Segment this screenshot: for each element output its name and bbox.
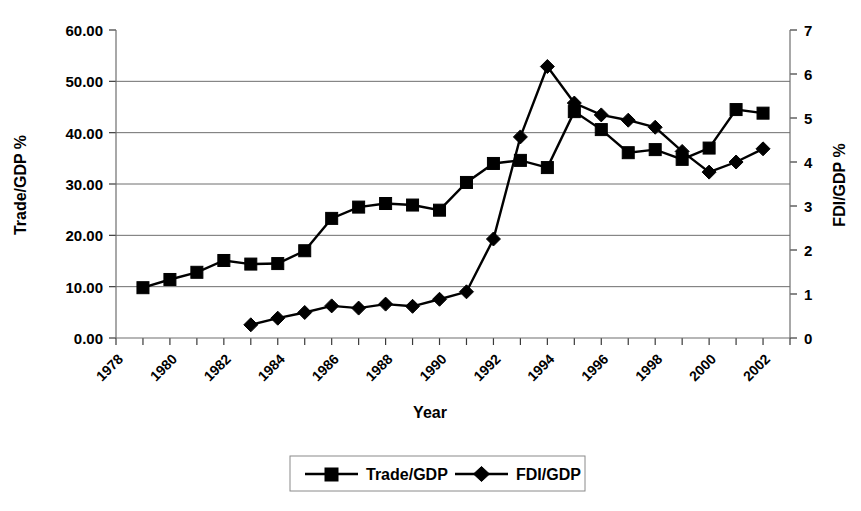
- data-point-square: [353, 201, 365, 213]
- chart-legend: Trade/GDP FDI/GDP: [290, 456, 585, 491]
- data-point-square: [164, 273, 176, 285]
- y-tick-label-left: 60.00: [65, 22, 103, 39]
- y-tick-label-right: 3: [804, 198, 812, 215]
- y-tick-label-left: 0.00: [74, 330, 103, 347]
- y-tick-label-left: 30.00: [65, 176, 103, 193]
- chart-figure: 0.0010.0020.0030.0040.0050.0060.00 01234…: [0, 0, 861, 511]
- data-point-square: [272, 258, 284, 270]
- legend-label-trade-gdp: Trade/GDP: [366, 466, 448, 483]
- legend-marker-square: [325, 468, 338, 481]
- legend-entry-trade-gdp[interactable]: Trade/GDP: [305, 466, 448, 483]
- line-chart: 0.0010.0020.0030.0040.0050.0060.00 01234…: [0, 0, 861, 511]
- y-tick-label-right: 7: [804, 22, 812, 39]
- data-point-square: [245, 258, 257, 270]
- data-point-square: [326, 212, 338, 224]
- data-point-square: [299, 245, 311, 257]
- y-tick-label-right: 2: [804, 242, 812, 259]
- data-point-square: [487, 157, 499, 169]
- y-tick-label-right: 5: [804, 110, 812, 127]
- y-axis-right-title: FDI/GDP %: [831, 143, 848, 226]
- chart-background: [0, 0, 861, 511]
- y-axis-left-title: Trade/GDP %: [12, 135, 29, 235]
- data-point-square: [380, 198, 392, 210]
- y-tick-label-right: 0: [804, 330, 812, 347]
- data-point-square: [595, 124, 607, 136]
- y-tick-label-right: 1: [804, 286, 812, 303]
- data-point-square: [541, 162, 553, 174]
- data-point-square: [757, 107, 769, 119]
- y-tick-label-left: 50.00: [65, 73, 103, 90]
- legend-label-fdi-gdp: FDI/GDP: [516, 466, 581, 483]
- data-point-square: [407, 199, 419, 211]
- data-point-square: [434, 204, 446, 216]
- data-point-square: [218, 254, 230, 266]
- y-tick-label-right: 6: [804, 66, 812, 83]
- data-point-square: [649, 144, 661, 156]
- data-point-square: [137, 282, 149, 294]
- y-tick-label-left: 10.00: [65, 279, 103, 296]
- y-tick-label-left: 20.00: [65, 227, 103, 244]
- data-point-square: [622, 147, 634, 159]
- data-point-square: [730, 104, 742, 116]
- y-tick-label-right: 4: [804, 154, 813, 171]
- y-tick-label-left: 40.00: [65, 125, 103, 142]
- x-axis-title: Year: [413, 404, 447, 421]
- data-point-square: [460, 176, 472, 188]
- data-point-square: [703, 142, 715, 154]
- data-point-square: [191, 266, 203, 278]
